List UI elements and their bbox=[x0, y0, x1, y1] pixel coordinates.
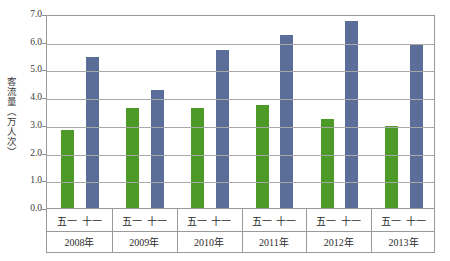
x-period-label: 五一 bbox=[380, 209, 402, 231]
bar-national-day bbox=[86, 57, 99, 208]
x-period-label: 十一 bbox=[405, 209, 427, 231]
x-year-label: 2008年 bbox=[47, 231, 112, 252]
group-separator bbox=[306, 231, 307, 252]
y-tick-label: 0.0 bbox=[14, 204, 42, 214]
x-year-label: 2012年 bbox=[306, 231, 371, 252]
x-period-label: 十一 bbox=[146, 209, 168, 231]
y-tick-label: 1.0 bbox=[14, 176, 42, 186]
x-year-label: 2011年 bbox=[242, 231, 307, 252]
y-tick-label: 5.0 bbox=[14, 65, 42, 75]
y-tick-mark bbox=[42, 15, 46, 16]
x-period-label: 五一 bbox=[186, 209, 208, 231]
gridline bbox=[47, 182, 434, 183]
gridline bbox=[47, 99, 434, 100]
y-tick-mark bbox=[42, 43, 46, 44]
group-separator bbox=[112, 231, 113, 252]
bar-national-day bbox=[345, 21, 358, 208]
x-axis-label-band: 五一十一五一十一五一十一五一十一五一十一五一十一 2008年2009年2010年… bbox=[46, 209, 435, 253]
x-period-label: 五一 bbox=[121, 209, 143, 231]
group-separator bbox=[242, 209, 243, 231]
y-tick-mark bbox=[42, 154, 46, 155]
group-separator bbox=[371, 231, 372, 252]
x-period-label: 十一 bbox=[340, 209, 362, 231]
bar-series-container bbox=[47, 16, 434, 208]
bar-national-day bbox=[151, 90, 164, 208]
x-axis-year-row: 2008年2009年2010年2011年2012年2013年 bbox=[47, 231, 434, 252]
bar-may-day bbox=[61, 130, 74, 208]
gridline bbox=[47, 155, 434, 156]
y-axis-ticks: 7.06.05.04.03.02.01.00.0 bbox=[14, 0, 42, 261]
x-axis-period-row: 五一十一五一十一五一十一五一十一五一十一五一十一 bbox=[47, 209, 434, 232]
y-tick-label: 2.0 bbox=[14, 149, 42, 159]
x-period-label: 五一 bbox=[315, 209, 337, 231]
group-separator bbox=[371, 209, 372, 231]
y-tick-label: 7.0 bbox=[14, 10, 42, 20]
x-period-label: 十一 bbox=[275, 209, 297, 231]
gridline bbox=[47, 127, 434, 128]
y-tick-label: 3.0 bbox=[14, 121, 42, 131]
group-separator bbox=[177, 231, 178, 252]
y-tick-mark bbox=[42, 181, 46, 182]
bar-may-day bbox=[126, 108, 139, 208]
group-separator bbox=[242, 231, 243, 252]
y-tick-label: 6.0 bbox=[14, 38, 42, 48]
group-separator bbox=[177, 209, 178, 231]
x-year-label: 2009年 bbox=[112, 231, 177, 252]
bar-may-day bbox=[385, 126, 398, 208]
plot-area bbox=[46, 15, 435, 209]
group-separator bbox=[306, 209, 307, 231]
bar-may-day bbox=[191, 108, 204, 208]
y-tick-mark bbox=[42, 126, 46, 127]
x-period-label: 五一 bbox=[251, 209, 273, 231]
x-year-label: 2013年 bbox=[371, 231, 436, 252]
y-tick-mark bbox=[42, 98, 46, 99]
y-tick-mark bbox=[42, 70, 46, 71]
y-tick-mark bbox=[42, 209, 46, 210]
x-period-label: 五一 bbox=[56, 209, 78, 231]
bar-may-day bbox=[321, 119, 334, 208]
x-period-label: 十一 bbox=[81, 209, 103, 231]
bar-national-day bbox=[216, 50, 229, 208]
x-period-label: 十一 bbox=[210, 209, 232, 231]
gridline bbox=[47, 44, 434, 45]
bar-chart: 客流量（万人次） 7.06.05.04.03.02.01.00.0 五一十一五一… bbox=[0, 0, 450, 261]
group-separator bbox=[112, 209, 113, 231]
x-year-label: 2010年 bbox=[177, 231, 242, 252]
bar-may-day bbox=[256, 105, 269, 208]
y-tick-label: 4.0 bbox=[14, 93, 42, 103]
gridline bbox=[47, 71, 434, 72]
